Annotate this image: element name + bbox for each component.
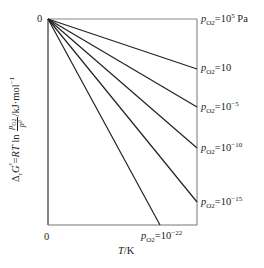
series-line <box>48 19 197 148</box>
y-axis-ln: ln <box>10 132 21 145</box>
series-label: pO2=10−5 <box>201 101 239 115</box>
series-label: pO2=105 Pa <box>201 13 248 27</box>
series-line <box>48 19 197 202</box>
series-line <box>48 19 197 69</box>
chart-plot <box>0 0 264 268</box>
y-axis-unit: /kJ·mol <box>10 84 21 116</box>
series-label: pO2=10−15 <box>201 196 242 210</box>
y-axis-fraction: pO2pᶿ <box>7 117 26 130</box>
y-axis-theta: ᶿ <box>8 163 16 165</box>
y-axis-RT: RT <box>10 145 21 157</box>
y-axis-zero-label: 0 <box>37 14 42 25</box>
series-line <box>48 19 197 107</box>
plot-frame <box>48 19 197 225</box>
series-lines <box>48 19 197 225</box>
series-label: pO2=10−10 <box>201 142 242 156</box>
x-axis-unit: /K <box>124 245 135 256</box>
series-line <box>48 19 160 225</box>
series-label: pO2=10−22 <box>141 230 182 244</box>
series-label: pO2=10 <box>201 63 231 76</box>
frac-num: p <box>6 126 15 130</box>
y-axis-eq: = <box>10 157 21 163</box>
x-axis-title: T/K <box>118 246 134 257</box>
frac-den: pᶿ <box>17 121 26 127</box>
x-axis-zero-label: 0 <box>44 232 49 243</box>
y-axis-title: ΔrGᶿ=RT ln pO2pᶿ/kJ·mol−1 <box>7 77 26 182</box>
y-axis-G: G <box>10 165 21 173</box>
y-axis-unit-sup: −1 <box>8 77 16 84</box>
y-axis-r: r <box>16 173 24 175</box>
y-axis-delta: Δ <box>10 175 21 182</box>
